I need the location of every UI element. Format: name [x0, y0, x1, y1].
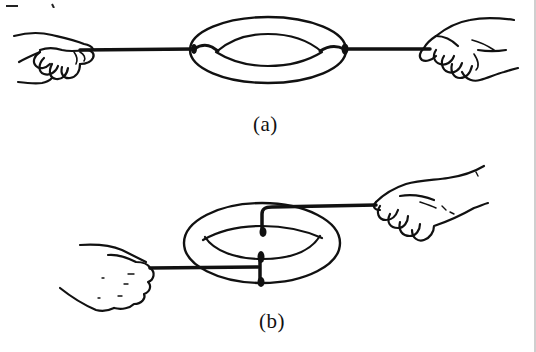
- panel-b-drawing: [0, 0, 536, 352]
- cropped-text-fragment: [0, 0, 60, 8]
- left-hand-icon: [60, 245, 154, 311]
- caption-b: (b): [259, 309, 285, 334]
- right-hand-icon: [374, 166, 488, 241]
- textbook-figure: (a): [0, 0, 536, 352]
